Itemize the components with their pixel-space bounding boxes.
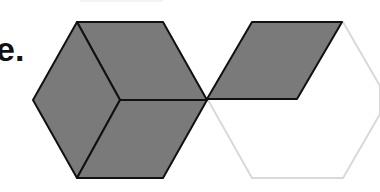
filled-hexagon: [33, 22, 207, 178]
rhombus-single: [207, 22, 342, 99]
hexagon-figure: [0, 0, 380, 192]
